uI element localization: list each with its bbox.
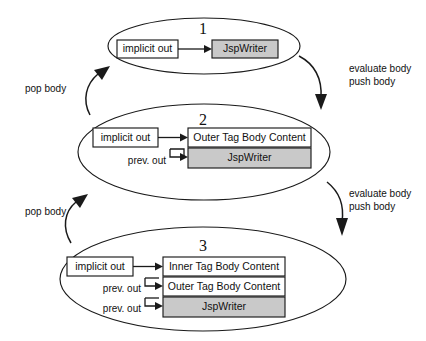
panel-3-implicit-out-label: implicit out [75, 260, 125, 272]
panel-1-jspwriter-label: JspWriter [223, 42, 268, 54]
panel-2-outer-tag-body-label: Outer Tag Body Content [193, 131, 306, 143]
panel-1-number: 1 [199, 20, 207, 37]
label-evaluate-body-2-line2: push body [349, 201, 395, 212]
panel-3-inner-tag-body-label: Inner Tag Body Content [169, 260, 279, 272]
transition-down-1-to-2-arrow-head [315, 94, 327, 110]
panel-2-group: 2 implicit out prev. out Outer Tag Body … [78, 104, 330, 200]
panel-3-number: 3 [199, 237, 207, 254]
diagram-svg: 1 implicit out JspWriter 2 implicit out [0, 0, 426, 341]
label-evaluate-body-1-line1: evaluate body [349, 63, 411, 74]
transition-down-2-to-3-arrow-head [336, 218, 348, 236]
panel-3-prev-out-label-1: prev. out [103, 283, 141, 294]
panel-1-implicit-out-label: implicit out [123, 42, 173, 54]
transition-up-3-to-2 [65, 194, 88, 243]
panel-3-outer-tag-body-label: Outer Tag Body Content [168, 280, 281, 292]
transition-up-3-to-2-arrow-head [72, 194, 88, 208]
transition-up-2-to-1 [86, 66, 110, 115]
panel-2-implicit-out-label: implicit out [101, 131, 151, 143]
panel-3-prev-out-label-2: prev. out [103, 303, 141, 314]
transition-up-3-to-2-path [65, 202, 76, 243]
label-pop-body-2: pop body [25, 206, 66, 217]
label-evaluate-body-1-line2: push body [349, 76, 395, 87]
panel-2-number: 2 [199, 111, 207, 128]
panel-3-jspwriter-label: JspWriter [202, 300, 247, 312]
label-evaluate-body-2-line1: evaluate body [349, 188, 411, 199]
transition-down-1-to-2-path [299, 56, 321, 98]
panel-3-group: 3 implicit out prev. out prev. out Inner… [60, 227, 346, 331]
diagram-canvas: 1 implicit out JspWriter 2 implicit out [0, 0, 426, 341]
panel-2-prev-out-label: prev. out [128, 155, 166, 166]
transition-up-2-to-1-arrow-head [94, 66, 110, 80]
transition-down-2-to-3-path [327, 182, 343, 222]
transition-down-2-to-3 [327, 182, 348, 236]
transition-up-2-to-1-path [86, 74, 98, 115]
panel-2-jspwriter-label: JspWriter [227, 151, 272, 163]
label-pop-body-1: pop body [25, 83, 66, 94]
transition-down-1-to-2 [299, 56, 327, 110]
panel-1-group: 1 implicit out JspWriter [108, 18, 300, 74]
